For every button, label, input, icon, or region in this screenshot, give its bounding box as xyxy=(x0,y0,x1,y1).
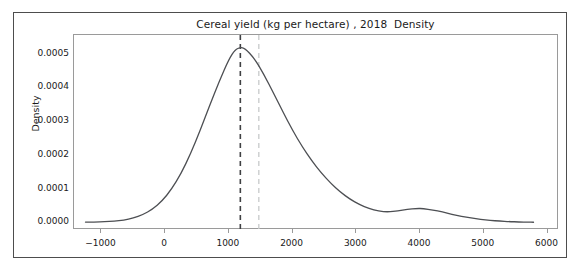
x-tick-label: 0 xyxy=(161,238,167,248)
y-axis-tick-labels: 0.00000.00010.00020.00030.00040.0005 xyxy=(22,34,69,229)
x-tick-mark xyxy=(483,229,484,233)
density-curve xyxy=(85,48,533,223)
x-tick-mark xyxy=(164,229,165,233)
x-tick-label: −1000 xyxy=(85,238,115,248)
x-tick-mark xyxy=(292,229,293,233)
y-tick-label: 0.0002 xyxy=(25,150,69,159)
y-tick-label: 0.0003 xyxy=(25,116,69,125)
chart-title: Cereal yield (kg per hectare) , 2018 Den… xyxy=(73,18,558,30)
x-tick-mark xyxy=(355,229,356,233)
x-tick-mark xyxy=(547,229,548,233)
plot-axes-area xyxy=(73,34,558,229)
vline-group xyxy=(240,35,258,230)
y-tick-label: 0.0005 xyxy=(25,49,69,58)
x-tick-label: 5000 xyxy=(471,238,494,248)
chart-screenshot: Cereal yield (kg per hectare) , 2018 Den… xyxy=(0,0,579,267)
y-tick-label: 0.0004 xyxy=(25,82,69,91)
x-tick-label: 4000 xyxy=(408,238,431,248)
y-tick-label: 0.0000 xyxy=(25,217,69,226)
x-tick-mark xyxy=(100,229,101,233)
x-tick-label: 2000 xyxy=(280,238,303,248)
x-tick-label: 1000 xyxy=(216,238,239,248)
x-tick-label: 6000 xyxy=(535,238,558,248)
x-tick-mark xyxy=(419,229,420,233)
x-tick-label: 3000 xyxy=(344,238,367,248)
x-tick-mark xyxy=(228,229,229,233)
figure-frame: Cereal yield (kg per hectare) , 2018 Den… xyxy=(13,12,567,258)
density-curve-plot xyxy=(74,35,559,230)
y-tick-label: 0.0001 xyxy=(25,184,69,193)
x-axis-tick-labels: −10000100020003000400050006000 xyxy=(73,232,558,252)
